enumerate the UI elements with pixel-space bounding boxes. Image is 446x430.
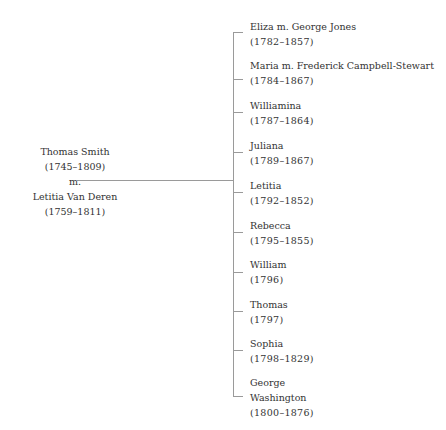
parent-connector-line	[77, 180, 233, 181]
father-name: Thomas Smith	[0, 144, 150, 159]
child-name: William	[250, 257, 286, 272]
children-bracket-line	[233, 32, 234, 396]
child-dates: (1798–1829)	[250, 351, 314, 366]
child-tick	[233, 79, 243, 80]
child-tick	[233, 32, 243, 33]
child-name: Williamina	[250, 98, 314, 113]
child-name: Juliana	[250, 138, 314, 153]
child-tick	[233, 152, 243, 153]
child-name: Eliza m. George Jones	[250, 19, 356, 34]
child-name: Letitia	[250, 178, 314, 193]
child-tick	[233, 112, 243, 113]
child-entry: Maria m. Frederick Campbell-Stewart (178…	[250, 58, 434, 88]
child-name: Rebecca	[250, 218, 314, 233]
child-tick	[233, 396, 243, 397]
mother-dates: (1759–1811)	[0, 204, 150, 219]
child-entry: William (1796)	[250, 257, 286, 287]
marriage-label: m.	[0, 174, 150, 189]
child-tick	[233, 350, 243, 351]
child-dates: (1787–1864)	[250, 113, 314, 128]
child-dates: (1795–1855)	[250, 233, 314, 248]
child-entry: Eliza m. George Jones (1782–1857)	[250, 19, 356, 49]
child-name: George	[250, 375, 314, 390]
child-tick	[233, 272, 243, 273]
father-dates: (1745–1809)	[0, 159, 150, 174]
child-dates: (1800–1876)	[250, 405, 314, 420]
child-tick	[233, 192, 243, 193]
child-dates: (1789–1867)	[250, 153, 314, 168]
parent-couple: Thomas Smith (1745–1809) m. Letitia Van …	[0, 144, 150, 219]
child-dates: (1797)	[250, 312, 288, 327]
child-tick	[233, 232, 243, 233]
child-name: Thomas	[250, 297, 288, 312]
child-dates: (1796)	[250, 272, 286, 287]
child-name: Maria m. Frederick Campbell-Stewart	[250, 58, 434, 73]
child-entry: Thomas (1797)	[250, 297, 288, 327]
child-entry: Rebecca (1795–1855)	[250, 218, 314, 248]
child-dates: (1782–1857)	[250, 34, 356, 49]
child-dates: (1784–1867)	[250, 73, 434, 88]
child-tick	[233, 311, 243, 312]
child-entry: Williamina (1787–1864)	[250, 98, 314, 128]
mother-name: Letitia Van Deren	[0, 189, 150, 204]
child-entry: Letitia (1792–1852)	[250, 178, 314, 208]
child-name: Sophia	[250, 336, 314, 351]
child-name-line2: Washington	[250, 390, 314, 405]
child-entry: Sophia (1798–1829)	[250, 336, 314, 366]
child-dates: (1792–1852)	[250, 193, 314, 208]
child-entry: George Washington (1800–1876)	[250, 375, 314, 420]
child-entry: Juliana (1789–1867)	[250, 138, 314, 168]
